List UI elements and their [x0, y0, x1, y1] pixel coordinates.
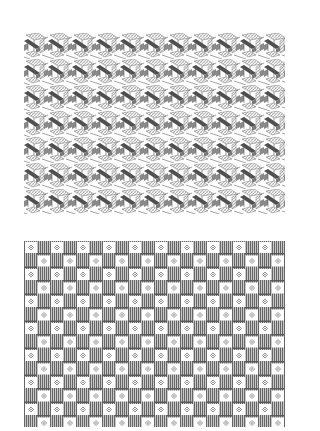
woven-cube-pattern-figure — [24, 33, 285, 214]
woven-pattern-graphic — [24, 33, 285, 214]
checker-pattern-graphic — [24, 241, 285, 427]
checker-motif-pattern-figure — [24, 241, 285, 427]
